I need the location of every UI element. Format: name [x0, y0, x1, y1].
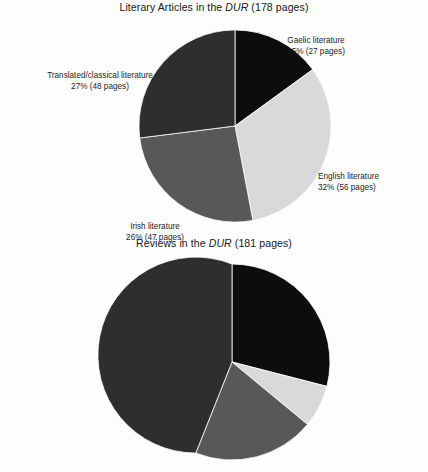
chart-1-label-english-value: 32% (56 pages) — [318, 183, 426, 194]
chart-1-label-translated-name: Translated/classical literature — [22, 71, 178, 82]
chart-1-pie — [137, 28, 333, 224]
chart-2-title: Reviews in the DUR (181 pages) — [0, 237, 428, 249]
chart-1-slice-irish[interactable] — [140, 126, 253, 222]
chart-1-label-irish-name: Irish literature — [92, 222, 218, 233]
chart-1-label-translated-value: 27% (48 pages) — [22, 82, 178, 93]
chart-1-label-gaelic-name: Gaelic literature — [252, 36, 380, 47]
chart-2-pie — [132, 262, 332, 462]
chart-1-title: Literary Articles in the DUR (178 pages) — [0, 1, 428, 13]
chart-1-title-journal: DUR — [225, 1, 248, 13]
chart-1-figure: Gaelic literature 15% (27 pages) English… — [0, 14, 428, 236]
chart-2-figure: Politics, economics, etc. 29% (53 pages)… — [0, 250, 428, 472]
chart-1-label-english-name: English literature — [318, 172, 426, 183]
chart-1-label-english: English literature 32% (56 pages) — [318, 172, 426, 193]
chart-2-title-journal: DUR — [209, 237, 232, 249]
chart-1-title-prefix: Literary Articles in the — [119, 1, 225, 13]
chart-1-label-gaelic-value: 15% (27 pages) — [252, 47, 380, 58]
chart-2-title-suffix: (181 pages) — [232, 237, 292, 249]
chart-1-title-suffix: (178 pages) — [248, 1, 308, 13]
chart-1-label-gaelic: Gaelic literature 15% (27 pages) — [252, 36, 380, 57]
chart-2-title-prefix: Reviews in the — [136, 237, 209, 249]
chart-1-label-translated: Translated/classical literature 27% (48 … — [22, 71, 178, 92]
document-page: Literary Articles in the DUR (178 pages)… — [0, 0, 428, 472]
